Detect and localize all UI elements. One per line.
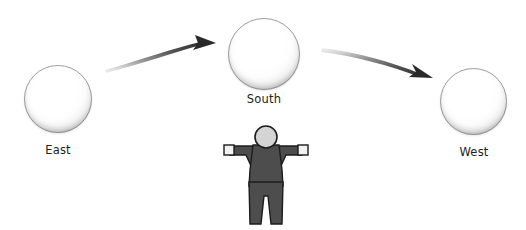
figure-left-hand: [224, 145, 234, 155]
figure-head: [255, 126, 277, 148]
arrow-south-to-west: [321, 48, 433, 78]
diagram-canvas: East South West: [0, 0, 526, 230]
sphere-west[interactable]: [440, 68, 507, 135]
figure-right-hand: [298, 145, 308, 155]
sphere-label-west: West: [430, 145, 518, 159]
observer-figure[interactable]: [222, 124, 310, 228]
figure-legs: [249, 182, 283, 224]
sphere-label-east: East: [14, 143, 102, 157]
arrowhead-south-to-west: [409, 64, 433, 78]
sphere-east[interactable]: [24, 65, 92, 133]
arrow-east-to-south: [105, 35, 216, 73]
arrowhead-east-to-south: [193, 35, 216, 50]
sphere-south[interactable]: [228, 18, 300, 90]
sphere-label-south: South: [220, 92, 308, 106]
figure-torso: [249, 145, 283, 186]
